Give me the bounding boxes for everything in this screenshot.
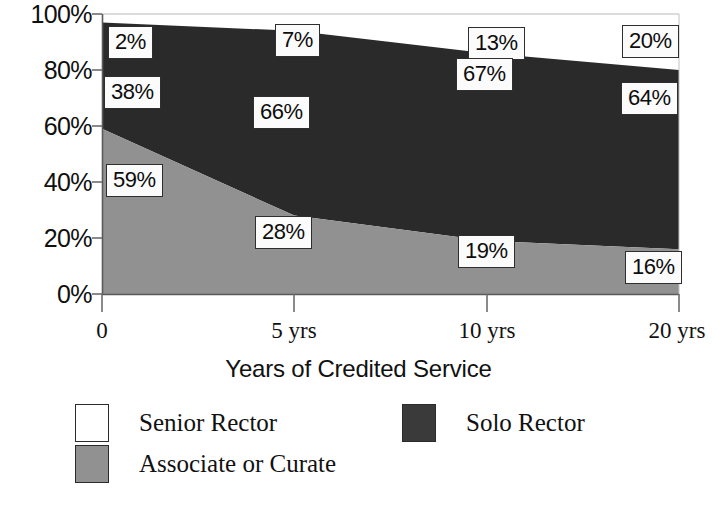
data-label-solo-0: 38% bbox=[104, 76, 161, 109]
data-label-senior-2: 13% bbox=[468, 27, 525, 60]
data-label-solo-3: 64% bbox=[621, 82, 678, 115]
legend-label-senior-rector: Senior Rector bbox=[139, 409, 277, 437]
legend-item-senior-rector: Senior Rector bbox=[75, 404, 277, 442]
x-axis-title: Years of Credited Service bbox=[0, 355, 717, 383]
data-label-senior-3: 20% bbox=[622, 25, 679, 58]
legend-label-solo-rector: Solo Rector bbox=[466, 409, 585, 437]
y-tick-label-40: 40% bbox=[0, 168, 92, 197]
legend-item-solo-rector: Solo Rector bbox=[402, 404, 585, 442]
legend-swatch-senior-rector bbox=[75, 404, 109, 442]
data-label-solo-2: 67% bbox=[456, 58, 513, 91]
x-tick-label-20yrs: 20 yrs bbox=[649, 318, 706, 344]
data-label-assoc-1: 28% bbox=[255, 216, 312, 249]
legend-label-associate-or-curate: Associate or Curate bbox=[139, 450, 336, 478]
y-tick-label-100: 100% bbox=[0, 0, 92, 29]
x-tick-label-0: 0 bbox=[96, 318, 108, 344]
data-label-senior-1: 7% bbox=[275, 24, 320, 57]
x-tick-label-5yrs: 5 yrs bbox=[271, 318, 316, 344]
y-tick-label-60: 60% bbox=[0, 112, 92, 141]
data-label-senior-0: 2% bbox=[108, 26, 153, 59]
x-tick-marks bbox=[102, 294, 679, 312]
y-tick-label-0: 0% bbox=[0, 280, 92, 309]
data-label-assoc-2: 19% bbox=[458, 235, 515, 268]
x-tick-label-10yrs: 10 yrs bbox=[459, 318, 516, 344]
data-label-assoc-0: 59% bbox=[106, 164, 163, 197]
y-tick-label-80: 80% bbox=[0, 56, 92, 85]
chart-legend: Senior Rector Solo Rector Associate or C… bbox=[0, 404, 717, 494]
data-label-assoc-3: 16% bbox=[625, 251, 682, 284]
data-label-solo-1: 66% bbox=[253, 96, 310, 129]
stacked-area-chart: 100% 80% 60% 40% 20% 0% 0 5 yrs 10 yrs 2… bbox=[0, 0, 717, 510]
legend-swatch-associate-or-curate bbox=[75, 445, 109, 483]
legend-swatch-solo-rector bbox=[402, 404, 436, 442]
legend-item-associate-or-curate: Associate or Curate bbox=[75, 445, 336, 483]
y-tick-marks bbox=[92, 14, 102, 294]
y-tick-label-20: 20% bbox=[0, 224, 92, 253]
